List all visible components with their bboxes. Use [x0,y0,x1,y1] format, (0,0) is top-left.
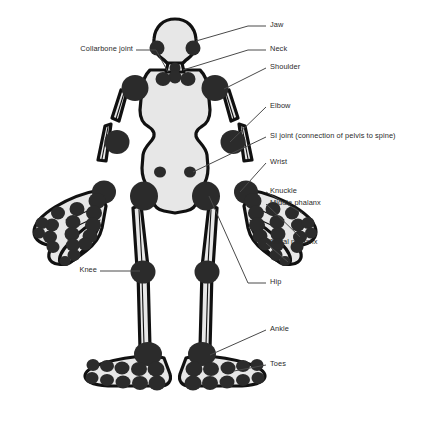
ankle-joints [134,342,216,366]
knee-joints [131,261,220,284]
neck-joints [169,63,182,84]
diagram-canvas: .bodyfill { fill: #e7e7e7; stroke: #1111… [0,0,430,421]
label-jaw: Jaw [270,21,283,28]
label-collarbone-joint: Collarbone joint [0,45,133,52]
label-neck: Neck [270,45,287,52]
label-toes: Toes [270,360,286,367]
label-middle-phalanx: Middle phalanx [270,199,321,206]
label-wrist: Wrist [270,158,287,165]
label-knee: Knee [0,266,97,273]
leader-jaw [196,26,266,41]
label-distal-phalanx: Distal phalanx [270,238,318,245]
label-hip: Hip [270,278,281,285]
label-shoulder: Shoulder [270,63,300,70]
label-elbow: Elbow [270,102,291,109]
label-knuckle: Knuckle [270,187,297,194]
label-ankle: Ankle [270,325,289,332]
leader-shoulder [224,68,266,89]
label-si-joint: SI joint (connection of pelvis to spine) [270,132,396,139]
leader-ankle [210,330,266,355]
skeletal-figure: .bodyfill { fill: #e7e7e7; stroke: #1111… [0,0,430,421]
